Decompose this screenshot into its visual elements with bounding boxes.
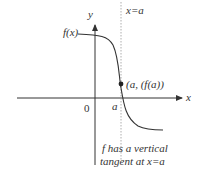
caption-line-2: tangent at x=a [100,155,165,167]
origin-label: 0 [84,102,90,114]
vertical-line-label: x=a [125,4,144,16]
point-label: (a, (f(a)) [126,78,164,91]
a-label: a [112,100,118,112]
function-label: f(x) [63,26,79,39]
y-axis-label: y [87,8,93,20]
x-axis-label: x [185,91,191,103]
tangent-point [119,82,124,87]
caption-line-1: f has a vertical [102,142,168,154]
vertical-tangent-diagram: y x 0 f(x) x=a (a, (f(a)) a f has a vert… [0,0,199,177]
